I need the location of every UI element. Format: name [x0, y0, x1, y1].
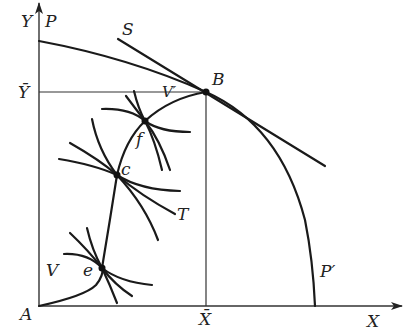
diagram-canvas: Y P Ȳ S B V′ f c T V e A X̄ P′ X: [0, 0, 411, 331]
point-c: [114, 172, 121, 179]
ppf-curve: [39, 41, 315, 306]
point-e: [99, 265, 106, 272]
label-a: A: [18, 304, 32, 324]
label-e: e: [83, 260, 93, 280]
label-x-bar: X̄: [197, 308, 212, 329]
label-y: Y: [21, 11, 34, 31]
label-t: T: [177, 204, 190, 224]
label-b: B: [211, 69, 225, 89]
indifference-curves-f: [102, 91, 190, 170]
contract-curve: [39, 92, 206, 306]
label-f: f: [134, 129, 145, 149]
label-c: c: [121, 159, 131, 179]
label-v: V: [46, 260, 60, 280]
point-f: [142, 118, 149, 125]
point-b: [203, 89, 210, 96]
label-s: S: [122, 19, 134, 39]
label-p-prime: P′: [319, 261, 335, 281]
label-p: P: [44, 11, 57, 31]
indifference-curves-c: [59, 119, 180, 240]
price-line-s: [118, 39, 325, 166]
label-x: X: [365, 311, 380, 331]
indifference-curves-e: [64, 228, 152, 303]
label-v-prime: V′: [162, 83, 177, 101]
label-y-bar: Ȳ: [18, 82, 31, 102]
